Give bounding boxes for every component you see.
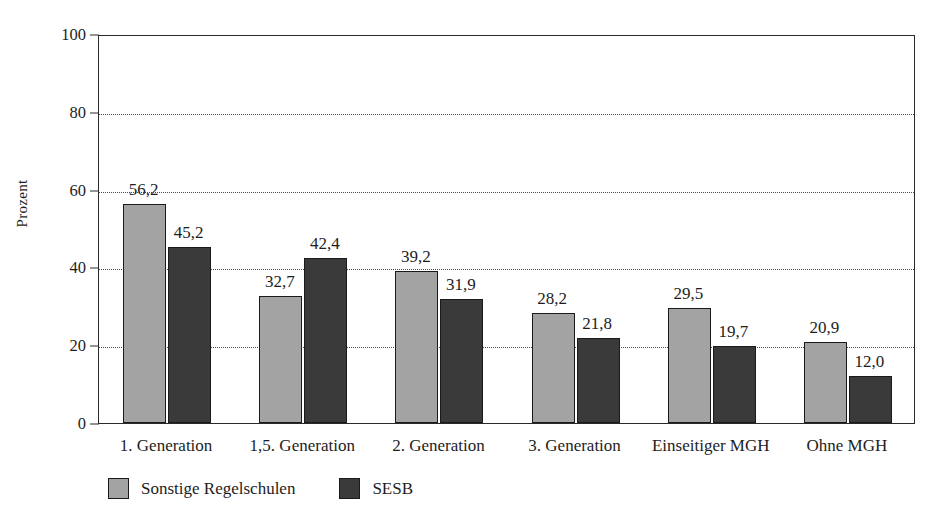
- legend-item[interactable]: Sonstige Regelschulen: [108, 478, 295, 499]
- x-category-label: 1,5. Generation: [250, 436, 355, 456]
- bar-value-label: 32,7: [265, 272, 295, 292]
- bar: [532, 313, 575, 423]
- bar-value-label: 21,8: [582, 314, 612, 334]
- bar: [577, 338, 620, 423]
- bar: [668, 308, 711, 423]
- x-category-label: 1. Generation: [120, 436, 213, 456]
- y-tick-label: 60: [28, 181, 86, 201]
- bar: [123, 204, 166, 423]
- legend-item[interactable]: SESB: [339, 478, 413, 499]
- y-tick-label: 0: [28, 414, 86, 434]
- bar: [804, 342, 847, 423]
- bar-value-label: 31,9: [446, 275, 476, 295]
- bar-value-label: 28,2: [537, 289, 567, 309]
- bar-value-label: 29,5: [673, 284, 703, 304]
- bar: [395, 271, 438, 423]
- x-category-label: 3. Generation: [528, 436, 621, 456]
- chart-legend: Sonstige RegelschulenSESB: [108, 478, 413, 499]
- bar-value-label: 56,2: [129, 180, 159, 200]
- bar-value-label: 39,2: [401, 247, 431, 267]
- plot-area: [98, 35, 915, 424]
- y-tick-label: 40: [28, 258, 86, 278]
- y-tick-label: 20: [28, 336, 86, 356]
- bar-chart: Prozent 020406080100 1. Generation1,5. G…: [0, 0, 938, 518]
- x-category-label: Ohne MGH: [807, 436, 888, 456]
- x-category-label: 2. Generation: [392, 436, 485, 456]
- bar-value-label: 42,4: [310, 234, 340, 254]
- legend-swatch-icon: [108, 478, 129, 499]
- legend-swatch-icon: [339, 478, 360, 499]
- bar: [168, 247, 211, 423]
- bar: [259, 296, 302, 423]
- bar-value-label: 19,7: [718, 322, 748, 342]
- bar: [849, 376, 892, 423]
- x-category-label: Einseitiger MGH: [652, 436, 770, 456]
- bar-value-label: 45,2: [174, 223, 204, 243]
- bar-value-label: 12,0: [855, 352, 885, 372]
- y-tick-label: 80: [28, 103, 86, 123]
- bar: [713, 346, 756, 423]
- gridline: [99, 269, 914, 270]
- bar-value-label: 20,9: [810, 318, 840, 338]
- bar: [304, 258, 347, 423]
- gridline: [99, 347, 914, 348]
- gridline: [99, 114, 914, 115]
- legend-label: SESB: [372, 479, 413, 499]
- bar: [440, 299, 483, 423]
- legend-label: Sonstige Regelschulen: [141, 479, 295, 499]
- y-tick-label: 100: [28, 25, 86, 45]
- gridline: [99, 192, 914, 193]
